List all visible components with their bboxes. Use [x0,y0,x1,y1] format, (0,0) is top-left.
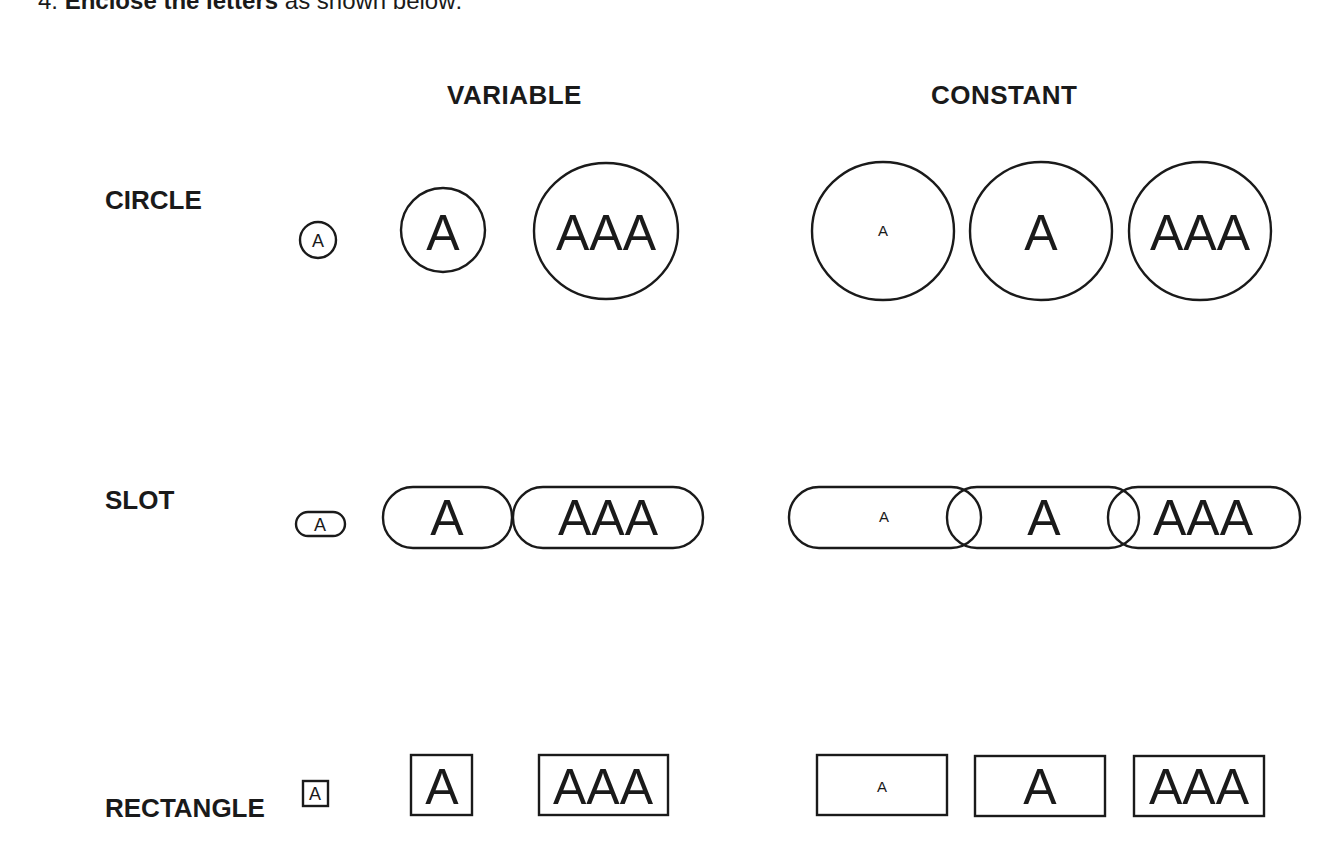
letter-slot-const-small: A [879,508,889,525]
letter-circle-var-small: A [312,231,324,251]
letter-circle-var-triple: AAA [556,205,657,261]
enclosure-figures: A A AAA A A AAA A A AAA A A AAA A A AAA … [0,0,1331,865]
letter-slot-var-small: A [314,515,326,535]
letter-slot-const-triple: AAA [1153,490,1254,546]
letter-circle-const-small: A [878,222,888,239]
letter-rect-var-small: A [309,784,321,804]
letter-slot-const-single: A [1027,490,1061,546]
letter-rect-const-triple: AAA [1149,759,1250,815]
letter-rect-var-single: A [425,759,459,815]
letter-circle-const-triple: AAA [1150,205,1251,261]
letter-slot-var-single: A [430,490,464,546]
letter-rect-const-single: A [1023,759,1057,815]
letter-circle-var-single: A [426,205,460,261]
letter-rect-var-triple: AAA [553,759,654,815]
letter-circle-const-single: A [1024,205,1058,261]
letter-slot-var-triple: AAA [558,490,659,546]
letter-rect-const-small: A [877,778,887,795]
